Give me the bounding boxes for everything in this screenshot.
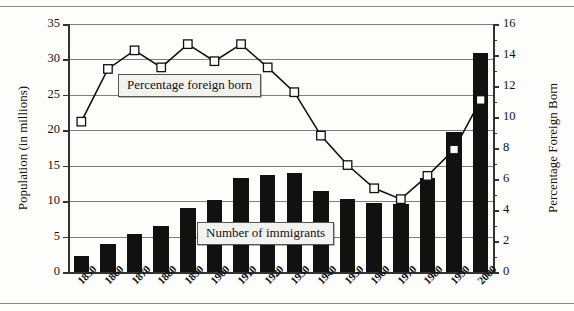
right-tick-mark — [494, 55, 499, 57]
left-tick-label: 20 — [26, 122, 60, 137]
figure-top-rule — [0, 6, 574, 7]
bar — [340, 199, 355, 272]
bar — [366, 203, 381, 272]
bar — [393, 204, 408, 272]
left-tick-label: 25 — [26, 87, 60, 102]
right-tick-label: 8 — [503, 140, 525, 155]
left-tick-label: 35 — [26, 16, 60, 31]
right-tick-mark — [494, 179, 499, 181]
right-tick-label: 12 — [503, 78, 525, 93]
bar — [473, 53, 488, 272]
bar — [180, 208, 195, 272]
right-tick-label: 2 — [503, 233, 525, 248]
right-tick-label: 6 — [503, 171, 525, 186]
right-tick-mark — [494, 241, 499, 243]
legend-number-of-immigrants: Number of immigrants — [197, 222, 334, 245]
right-tick-mark — [494, 24, 499, 26]
right-tick-mark — [494, 148, 499, 150]
right-tick-label: 14 — [503, 47, 525, 62]
chart-figure: Population (in millions) Percentage Fore… — [0, 0, 574, 311]
right-tick-mark — [494, 86, 499, 88]
left-tick-label: 5 — [26, 229, 60, 244]
left-tick-label: 30 — [26, 51, 60, 66]
right-tick-label: 10 — [503, 109, 525, 124]
right-tick-mark — [494, 117, 499, 119]
left-tick-label: 10 — [26, 193, 60, 208]
left-tick-label: 15 — [26, 158, 60, 173]
bar — [446, 132, 461, 272]
right-axis-title: Percentage Foreign Born — [545, 53, 561, 243]
figure-bottom-rule — [0, 303, 574, 304]
bar — [420, 178, 435, 272]
right-tick-label: 0 — [503, 264, 525, 279]
right-tick-label: 4 — [503, 202, 525, 217]
left-tick-label: 0 — [26, 264, 60, 279]
right-tick-label: 16 — [503, 16, 525, 31]
right-tick-mark — [494, 210, 499, 212]
legend-percentage-foreign-born: Percentage foreign born — [118, 74, 261, 97]
